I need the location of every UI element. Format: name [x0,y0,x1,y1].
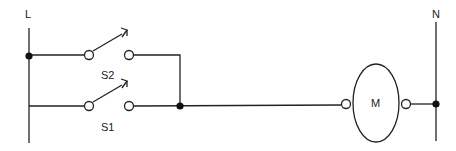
s1-pushbutton-icon [121,79,127,88]
s1-switch-arm [93,85,122,102]
s1-right-contact [125,102,134,111]
s2-pushbutton-icon [121,28,127,37]
label-M: M [371,97,380,109]
motor-right-terminal [402,100,411,109]
s2-right-contact [125,51,134,60]
s2-left-contact [85,51,94,60]
label-S1: S1 [101,121,114,133]
s2-right-wire [134,55,180,106]
motor-left-terminal [342,100,351,109]
label-S2: S2 [101,69,114,81]
junction-dot-L [25,52,32,59]
s1-left-contact [85,102,94,111]
main-wire [134,105,341,106]
label-N: N [432,8,440,20]
ladder-diagram: L N S2 S1 M [0,0,456,151]
label-L: L [25,8,31,20]
s2-switch-arm [93,34,122,51]
junction-dot-N [432,100,439,107]
junction-dot-parallel [176,102,183,109]
